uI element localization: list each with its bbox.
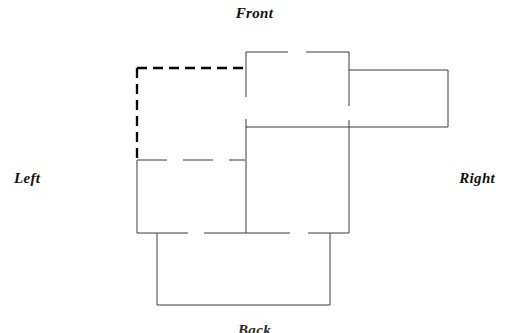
label-front: Front	[0, 5, 509, 22]
box-net-drawing	[0, 0, 509, 333]
left-bottom-panel-solid	[137, 160, 246, 233]
label-back: Back	[0, 322, 509, 333]
left-top-panel-dashed	[137, 68, 245, 160]
label-left: Left	[14, 170, 40, 187]
right-panel-solid	[349, 70, 448, 127]
front-top-panel-solid	[246, 52, 349, 127]
front-bottom-panel-solid	[246, 127, 349, 233]
diagram-canvas: Front Left Right Back	[0, 0, 509, 333]
back-panel-solid	[157, 233, 330, 305]
label-right: Right	[459, 170, 495, 187]
